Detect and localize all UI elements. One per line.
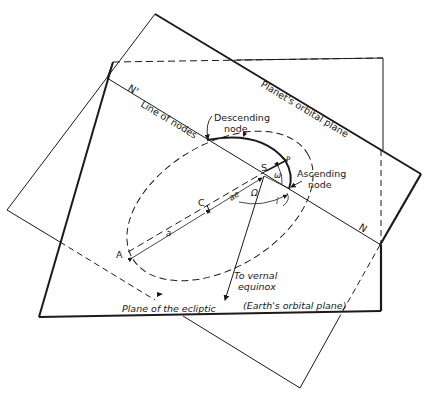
node-n-label: N [357,221,369,234]
ecliptic-label: Plane of the ecliptic [122,303,217,314]
orbit-ellipse [101,100,340,311]
orbital-plane-bottom-edge-hidden [60,242,155,300]
vernal-equinox-label-line1: To vernal [234,270,278,281]
ecliptic-sublabel: (Earth's orbital plane) [243,300,346,311]
orbital-plane-bottom-edge-lower [183,316,300,388]
major-axis-dashed [128,171,266,252]
orbital-plane-right-edge-visible [380,174,421,245]
focal-offset-label: ae [227,189,241,203]
descending-node-label-line2: node [224,123,248,134]
sun-label: S [261,162,267,173]
node-n-prime-label: N' [126,82,140,97]
ascending-node-label-line2: node [308,179,332,190]
line-of-nodes-label: Line of nodes [139,98,199,140]
descending-node-pointer [207,116,212,139]
omega-label: ω [274,170,281,180]
ascending-node-label-line1: Ascending [297,168,346,179]
orbital-elements-diagram: N' Line of nodes N Planet's orbital plan… [0,0,431,397]
orbital-plane-bottom-edge-visible [7,210,60,242]
orbit-ellipse-below-ecliptic [101,100,340,311]
ecliptic-left-edge [39,62,113,317]
center-label: C [198,197,205,208]
orbit-arc-above-ecliptic [207,138,291,190]
orbit-direction-arrow-bottom [157,292,163,297]
aphelion-label: A [116,249,123,260]
orbital-plane-label: Planet's orbital plane [259,78,351,139]
inclination-angle-arc [283,193,288,206]
perihelion-label: P [286,155,291,164]
vernal-equinox-label-line2: equinox [238,281,276,292]
semi-major-axis-label: a [166,228,171,238]
inclination-label: i [276,197,279,206]
longitude-node-angle-arc [239,195,287,204]
Omega-label: Ω [250,188,258,198]
center-tick [207,205,210,213]
ascending-node-pointer [291,181,302,187]
descending-node-label-line1: Descending [214,112,270,123]
orbital-plane-right-edge-lower [300,316,340,388]
orbital-plane-left-edge [7,14,155,210]
ecliptic-top-edge-visible [237,58,383,60]
